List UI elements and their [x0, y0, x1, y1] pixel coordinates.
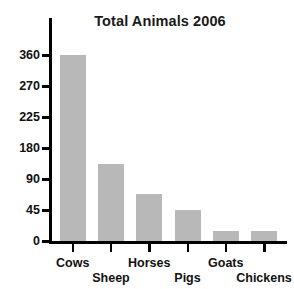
y-axis-tick-label: 270 [6, 80, 40, 93]
y-axis-tick-label: 225 [6, 111, 40, 124]
y-axis-tick-labels: 36027022518090450 [0, 0, 40, 289]
y-axis-tick [42, 54, 50, 57]
x-axis-category-label: Pigs [148, 272, 228, 285]
x-axis-tick [72, 244, 75, 252]
y-axis-tick-label: 360 [6, 49, 40, 62]
y-axis-tick-label: 90 [6, 173, 40, 186]
x-axis-category-label: Horses [109, 257, 189, 270]
y-axis-tick [42, 116, 50, 119]
bar [213, 231, 239, 241]
x-axis-line [49, 241, 287, 244]
x-axis-tick [225, 244, 228, 252]
y-axis-tick [42, 209, 50, 212]
y-axis-tick [42, 178, 50, 181]
bar [60, 55, 86, 241]
bar [251, 231, 277, 241]
x-axis-tick [110, 244, 113, 252]
bar-chart: Total Animals 2006 36027022518090450 Cow… [0, 0, 294, 289]
chart-title: Total Animals 2006 [60, 13, 260, 29]
bar [136, 194, 162, 241]
x-axis-category-label: Cows [33, 257, 113, 270]
x-axis-category-label: Chickens [224, 272, 294, 285]
y-axis-tick [42, 147, 50, 150]
y-axis-tick-label: 45 [6, 204, 40, 217]
x-axis-tick [148, 244, 151, 252]
x-axis-tick [187, 244, 190, 252]
y-axis-tick [42, 240, 50, 243]
x-axis-category-label: Sheep [71, 272, 151, 285]
y-axis-tick [42, 85, 50, 88]
y-axis-tick-label: 180 [6, 142, 40, 155]
bar [98, 164, 124, 242]
y-axis-tick-label: 0 [6, 235, 40, 248]
bar [175, 210, 201, 241]
x-axis-tick [263, 244, 266, 252]
x-axis-category-label: Goats [186, 257, 266, 270]
